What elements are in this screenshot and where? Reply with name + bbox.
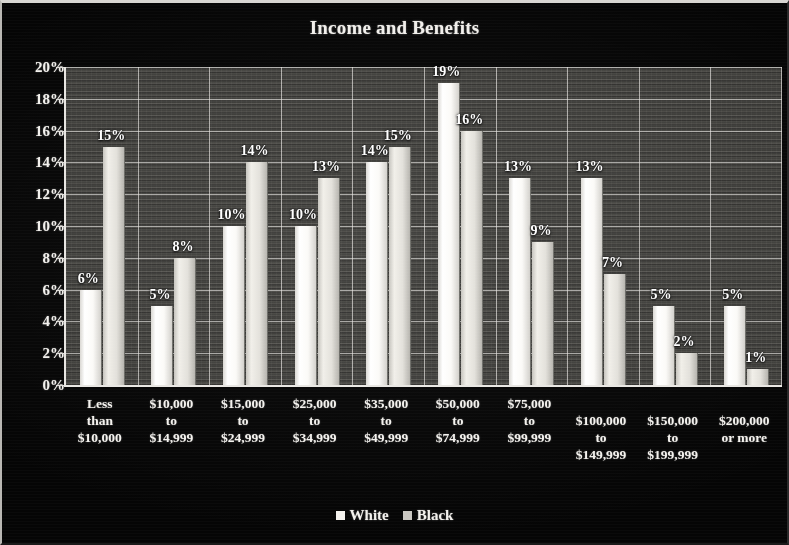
bar-value-label: 5% xyxy=(651,287,672,303)
x-axis-category-label: $35,000 to $49,999 xyxy=(364,395,408,446)
bar-white-2 xyxy=(223,226,245,385)
bar-value-label: 2% xyxy=(674,334,695,350)
legend-label: Black xyxy=(417,507,454,524)
bar-white-4 xyxy=(366,162,388,385)
bar-black-9 xyxy=(747,369,769,385)
chart-title: Income and Benefits xyxy=(2,17,787,39)
bar-value-label: 16% xyxy=(455,112,483,128)
bar-black-3 xyxy=(318,178,340,385)
bar-black-6 xyxy=(532,242,554,385)
bar-white-1 xyxy=(151,306,173,386)
chart-frame: Income and Benefits 20%18%16%14%12%10%8%… xyxy=(0,0,789,545)
legend-entry-black[interactable]: Black xyxy=(403,507,454,524)
gridline-vertical xyxy=(424,67,425,385)
bar-value-label: 1% xyxy=(745,350,766,366)
bar-black-2 xyxy=(246,162,268,385)
x-axis-category-label: $75,000 to $99,999 xyxy=(507,395,551,446)
x-axis-category-label: Less than $10,000 xyxy=(78,395,122,446)
bar-black-0 xyxy=(103,147,125,386)
y-axis-tick-mark xyxy=(56,258,64,259)
legend-swatch-icon xyxy=(403,511,412,520)
gridline-vertical xyxy=(496,67,497,385)
y-axis-tick-mark xyxy=(56,385,64,386)
bar-white-5 xyxy=(438,83,460,385)
bar-value-label: 10% xyxy=(218,207,246,223)
bar-black-4 xyxy=(389,147,411,386)
gridline-vertical xyxy=(639,67,640,385)
bar-white-3 xyxy=(295,226,317,385)
gridline-vertical xyxy=(209,67,210,385)
x-axis-line xyxy=(64,385,782,387)
bar-black-8 xyxy=(676,353,698,385)
bar-value-label: 15% xyxy=(384,128,412,144)
x-axis-category-label: $150,000 to $199,999 xyxy=(647,412,698,463)
plot-right-edge xyxy=(781,67,782,385)
y-axis-tick-mark xyxy=(56,321,64,322)
bar-white-9 xyxy=(724,306,746,386)
bar-value-label: 13% xyxy=(576,159,604,175)
legend-swatch-icon xyxy=(336,511,345,520)
x-axis-category-label: $100,000 to $149,999 xyxy=(576,412,627,463)
gridline-vertical xyxy=(281,67,282,385)
gridline-vertical xyxy=(567,67,568,385)
y-axis-tick-mark xyxy=(56,353,64,354)
chart-legend: WhiteBlack xyxy=(2,507,787,524)
gridline-vertical xyxy=(138,67,139,385)
bar-value-label: 9% xyxy=(530,223,551,239)
y-axis-tick-mark xyxy=(56,131,64,132)
y-axis-tick-mark xyxy=(56,99,64,100)
bar-value-label: 13% xyxy=(504,159,532,175)
bar-value-label: 5% xyxy=(722,287,743,303)
bar-value-label: 15% xyxy=(97,128,125,144)
bar-white-7 xyxy=(581,178,603,385)
x-axis-category-label: $25,000 to $34,999 xyxy=(293,395,337,446)
bar-value-label: 14% xyxy=(241,143,269,159)
y-axis-tick-mark xyxy=(56,290,64,291)
x-axis-category-label: $50,000 to $74,999 xyxy=(436,395,480,446)
gridline-vertical xyxy=(352,67,353,385)
bar-value-label: 19% xyxy=(432,64,460,80)
x-axis-category-label: $10,000 to $14,999 xyxy=(149,395,193,446)
x-axis-category-label: $15,000 to $24,999 xyxy=(221,395,265,446)
y-axis-tick-mark xyxy=(56,162,64,163)
gridline-vertical xyxy=(710,67,711,385)
y-axis-tick-mark xyxy=(56,226,64,227)
bar-black-7 xyxy=(604,274,626,385)
y-axis-tick-mark xyxy=(56,194,64,195)
bar-value-label: 5% xyxy=(149,287,170,303)
bar-black-1 xyxy=(174,258,196,385)
bar-black-5 xyxy=(461,131,483,385)
legend-label: White xyxy=(350,507,389,524)
x-axis-category-label: $200,000 or more xyxy=(719,412,770,446)
y-axis-tick-mark xyxy=(56,67,64,68)
bar-white-0 xyxy=(80,290,102,385)
bar-value-label: 10% xyxy=(289,207,317,223)
bar-value-label: 7% xyxy=(602,255,623,271)
bar-value-label: 13% xyxy=(312,159,340,175)
bar-value-label: 8% xyxy=(172,239,193,255)
legend-entry-white[interactable]: White xyxy=(336,507,389,524)
bar-value-label: 6% xyxy=(78,271,99,287)
bar-value-label: 14% xyxy=(361,143,389,159)
bar-white-8 xyxy=(653,306,675,386)
bar-white-6 xyxy=(509,178,531,385)
